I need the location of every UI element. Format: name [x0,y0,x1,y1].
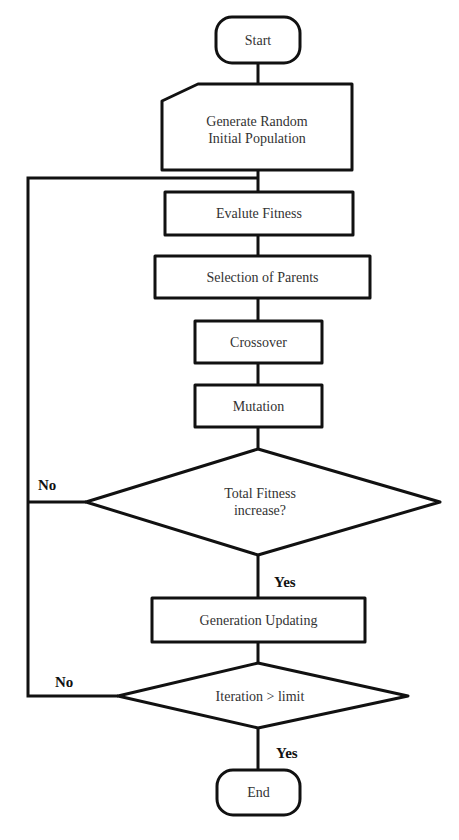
iteration-no-label: No [55,674,73,691]
end-label: End [217,770,300,815]
iteration-yes-label: Yes [276,745,298,762]
evaluate-fitness-label: Evalute Fitness [165,192,353,235]
init-population-label: Generate Random Initial Population [162,90,352,170]
generation-update-label: Generation Updating [152,598,365,642]
selection-label: Selection of Parents [155,256,370,298]
fitness-yes-label: Yes [274,574,296,591]
fitness-no-label: No [38,477,56,494]
mutation-label: Mutation [195,385,322,427]
iteration-decision-label: Iteration > limit [160,680,360,712]
crossover-label: Crossover [195,321,322,363]
start-label: Start [216,17,300,63]
fitness-decision-label: Total Fitness increase? [160,472,360,532]
